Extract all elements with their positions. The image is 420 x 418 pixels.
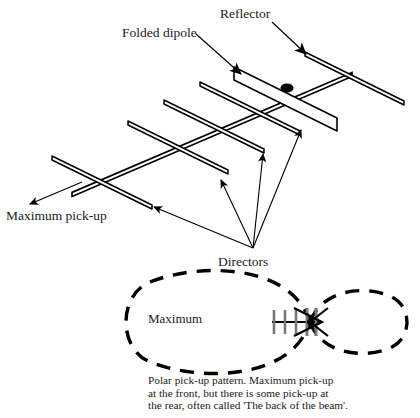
antenna-assembly xyxy=(52,52,404,209)
polar-rear-lobe xyxy=(310,291,407,354)
element-reflector xyxy=(305,52,404,105)
label-directors: Directors xyxy=(218,254,268,270)
pointer-folded-dipole xyxy=(196,34,241,74)
pointer-reflector xyxy=(272,22,306,54)
label-maximum: Maximum xyxy=(148,311,202,327)
label-folded-dipole: Folded dipole xyxy=(122,25,197,41)
label-reflector: Reflector xyxy=(220,6,270,22)
element-folded-dipole xyxy=(234,67,337,131)
antenna-symbol xyxy=(272,308,328,336)
feed-point xyxy=(281,83,294,92)
label-maximum-pickup: Maximum pick-up xyxy=(6,208,107,224)
figure-caption: Polar pick-up pattern. Maximum pick-up a… xyxy=(148,374,414,412)
